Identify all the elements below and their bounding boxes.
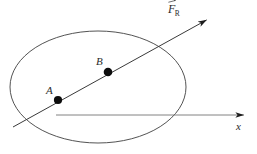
force-subscript: R	[175, 9, 180, 18]
rigid-body-ellipse	[10, 31, 186, 143]
resultant-force-label: F R	[168, 3, 180, 15]
figure-canvas	[0, 0, 257, 154]
point-b-label: B	[96, 56, 103, 67]
point-a-marker	[54, 96, 62, 104]
point-b-marker	[104, 68, 113, 77]
x-axis-label: x	[236, 121, 241, 132]
point-a-label: A	[46, 85, 53, 96]
physics-figure: A B x F R	[0, 0, 257, 154]
